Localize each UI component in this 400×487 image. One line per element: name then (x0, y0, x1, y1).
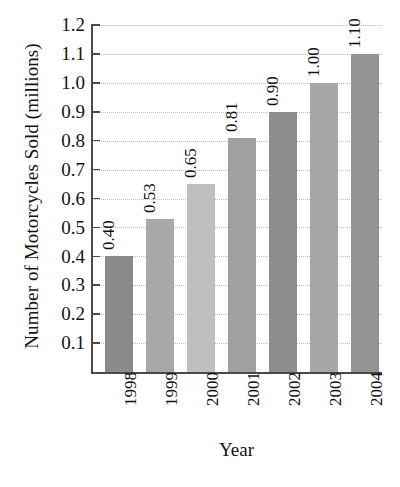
bar: 0.652000 (187, 184, 215, 372)
bar-value-label: 1.10 (346, 18, 363, 48)
y-axis-tick: 0.4 (91, 256, 100, 258)
y-axis-tick-label: 1.2 (33, 15, 85, 34)
bar-value-label: 1.00 (305, 47, 322, 77)
plot-area: 0.10.20.30.40.50.60.70.80.91.01.11.2 0.4… (91, 25, 382, 373)
x-axis-tick-label: 2002 (286, 372, 303, 406)
y-axis-tick-label: 1.0 (33, 73, 85, 92)
bar-value-label: 0.53 (141, 183, 158, 213)
chart-figure: Number of Motorcycles Sold (millions) 0.… (0, 0, 400, 487)
y-axis-tick-label: 0.1 (33, 333, 85, 352)
x-axis-tick-label: 2004 (368, 372, 385, 406)
y-axis-tick: 1.0 (91, 82, 100, 84)
bar-value-label: 0.65 (182, 148, 199, 178)
bar: 1.102004 (351, 54, 379, 372)
bar: 1.002003 (310, 83, 338, 372)
y-axis-tick-label: 0.9 (33, 101, 85, 120)
y-axis-tick: 1.1 (91, 53, 100, 55)
y-axis-tick: 0.9 (91, 111, 100, 113)
x-axis-tick-label: 2003 (327, 372, 344, 406)
bar-value-label: 0.90 (264, 76, 281, 106)
bar: 0.401998 (105, 256, 133, 372)
bar-value-label: 0.40 (100, 221, 117, 251)
y-axis-tick: 0.3 (91, 284, 100, 286)
x-axis-tick-label: 2000 (204, 372, 221, 406)
y-axis-tick-label: 0.6 (33, 188, 85, 207)
bar: 0.531999 (146, 219, 174, 372)
y-axis-tick-label: 0.8 (33, 130, 85, 149)
y-axis-tick-label: 0.7 (33, 159, 85, 178)
gridline (95, 83, 382, 84)
bar: 0.812001 (228, 138, 256, 372)
y-axis-tick: 0.7 (91, 169, 100, 171)
x-axis-title: Year (91, 439, 382, 461)
y-axis-tick-label: 0.5 (33, 217, 85, 236)
x-axis-tick-label: 1998 (122, 372, 139, 406)
y-axis-tick-label: 0.3 (33, 275, 85, 294)
y-axis-tick: 0.2 (91, 313, 100, 315)
gridline (95, 25, 382, 26)
bar-value-label: 0.81 (223, 102, 240, 132)
y-axis-tick: 0.1 (91, 342, 100, 344)
y-axis-line (91, 25, 93, 374)
y-axis-tick: 1.2 (91, 24, 100, 26)
y-axis-tick-label: 1.1 (33, 44, 85, 63)
x-axis-tick-label: 1999 (163, 372, 180, 406)
x-axis-tick-label: 2001 (245, 372, 262, 406)
y-axis-tick-label: 0.2 (33, 304, 85, 323)
y-axis-tick-label: 0.4 (33, 246, 85, 265)
gridline (95, 54, 382, 55)
y-axis-tick: 0.6 (91, 198, 100, 200)
y-axis-tick: 0.8 (91, 140, 100, 142)
bar: 0.902002 (269, 112, 297, 372)
